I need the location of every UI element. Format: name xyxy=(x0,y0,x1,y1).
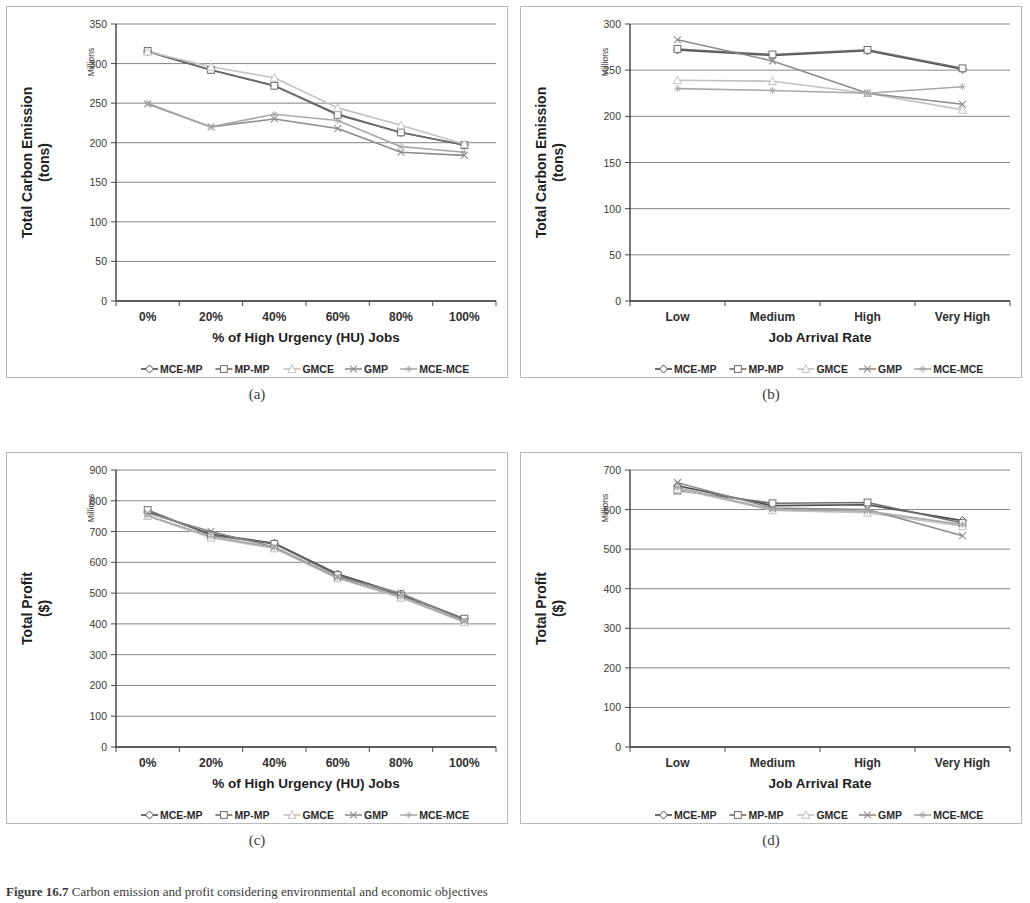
legend-item-gmce[interactable]: GMCE xyxy=(797,363,848,375)
legend-item-mce-mp[interactable]: MCE-MP xyxy=(655,363,717,375)
marker-star xyxy=(144,512,151,519)
data-point-star xyxy=(398,593,405,600)
marker-star xyxy=(398,143,405,150)
x-tick-label: 20% xyxy=(199,756,223,770)
y-tick-label: 100 xyxy=(89,216,107,228)
legend-item-mce-mp[interactable]: MCE-MP xyxy=(141,809,203,821)
y-tick-label: 200 xyxy=(89,137,107,149)
series-line-mp-mp xyxy=(148,51,465,145)
y-tick-label: 700 xyxy=(603,464,621,476)
y-tick-label: 500 xyxy=(603,543,621,555)
data-point-star xyxy=(959,521,966,528)
legend-item-mp-mp[interactable]: MP-MP xyxy=(729,363,783,375)
data-point-star xyxy=(461,618,468,625)
marker-square xyxy=(271,82,278,89)
marker-square xyxy=(221,812,228,819)
legend-label: GMP xyxy=(878,809,902,821)
legend-item-gmp[interactable]: GMP xyxy=(859,363,902,375)
y-tick-label: 600 xyxy=(89,556,107,568)
data-point-star xyxy=(769,87,776,94)
y-tick-label: 300 xyxy=(603,622,621,634)
data-point-square xyxy=(864,499,871,506)
marker-square xyxy=(674,46,681,53)
data-point-square xyxy=(769,51,776,58)
legend-label: MCE-MCE xyxy=(933,809,983,821)
y-axis-title-line2: ($) xyxy=(36,600,52,617)
legend-label: GMP xyxy=(364,809,388,821)
chart-a-canvas: 0501001502002503003500%20%40%60%80%100%%… xyxy=(6,6,508,378)
legend-label: GMCE xyxy=(816,363,848,375)
marker-star xyxy=(769,87,776,94)
series-line-gmp xyxy=(678,40,963,105)
y-axis-title-line2: (tons) xyxy=(36,143,52,182)
x-tick-label: 100% xyxy=(449,756,480,770)
x-tick-label: Medium xyxy=(750,756,795,770)
y-axis-title: Total Profit($) xyxy=(19,572,52,645)
legend-item-mce-mce[interactable]: MCE-MCE xyxy=(400,809,469,821)
figure-caption-text: Carbon emission and profit considering e… xyxy=(72,884,488,899)
y-axis-title-line2: (tons) xyxy=(550,143,566,182)
legend-item-gmp[interactable]: GMP xyxy=(859,809,902,821)
x-tick-label: High xyxy=(854,310,881,324)
x-tick-label: 60% xyxy=(326,756,350,770)
marker-star xyxy=(674,85,681,92)
legend-item-gmce[interactable]: GMCE xyxy=(283,809,334,821)
y-tick-label: 250 xyxy=(89,97,107,109)
y-axis-title-line2: ($) xyxy=(550,600,566,617)
y-axis-title: Total Profit($) xyxy=(533,572,566,645)
legend-item-mp-mp[interactable]: MP-MP xyxy=(215,363,269,375)
legend-item-gmce[interactable]: GMCE xyxy=(797,809,848,821)
x-tick-label: 0% xyxy=(139,310,157,324)
marker-triangle xyxy=(334,104,342,112)
y-tick-label: 0 xyxy=(101,295,107,307)
data-point-square xyxy=(674,46,681,53)
data-point-star xyxy=(144,100,151,107)
x-axis-title: Job Arrival Rate xyxy=(768,330,872,345)
marker-star xyxy=(405,812,412,819)
legend-item-mp-mp[interactable]: MP-MP xyxy=(729,809,783,821)
data-point-square xyxy=(221,366,228,373)
figure-panel-grid: 0501001502002503003500%20%40%60%80%100%%… xyxy=(0,0,1030,903)
marker-star xyxy=(208,123,215,130)
legend-label: MP-MP xyxy=(748,809,783,821)
legend-item-mce-mce[interactable]: MCE-MCE xyxy=(914,363,983,375)
marker-square xyxy=(735,812,742,819)
legend-label: MCE-MP xyxy=(674,809,717,821)
legend-item-gmce[interactable]: GMCE xyxy=(283,363,334,375)
y-tick-label: 150 xyxy=(89,176,107,188)
legend-label: MCE-MP xyxy=(160,363,203,375)
data-point-star xyxy=(208,533,215,540)
legend-item-gmp[interactable]: GMP xyxy=(345,809,388,821)
legend-item-mp-mp[interactable]: MP-MP xyxy=(215,809,269,821)
legend-label: MCE-MP xyxy=(674,363,717,375)
legend-label: GMP xyxy=(878,363,902,375)
chart-b-canvas: 050100150200250300LowMediumHighVery High… xyxy=(520,6,1022,378)
marker-star xyxy=(208,533,215,540)
legend-item-mce-mce[interactable]: MCE-MCE xyxy=(914,809,983,821)
legend-item-gmp[interactable]: GMP xyxy=(345,363,388,375)
legend-label: MCE-MCE xyxy=(933,363,983,375)
y-axis-title-line1: Total Profit xyxy=(19,572,35,645)
y-axis-units-text: Millions xyxy=(86,494,96,522)
y-tick-label: 350 xyxy=(89,18,107,30)
data-point-square xyxy=(735,812,742,819)
legend-item-mce-mp[interactable]: MCE-MP xyxy=(141,363,203,375)
legend-label: GMCE xyxy=(302,363,334,375)
data-point-star xyxy=(919,812,926,819)
x-tick-label: 40% xyxy=(262,310,286,324)
y-tick-label: 100 xyxy=(89,710,107,722)
y-tick-label: 50 xyxy=(95,255,107,267)
series-line-gmce xyxy=(148,516,465,622)
legend-item-mce-mp[interactable]: MCE-MP xyxy=(655,809,717,821)
y-axis-title-line1: Total Carbon Emission xyxy=(19,87,35,238)
marker-diamond xyxy=(660,365,668,373)
x-tick-label: 100% xyxy=(449,310,480,324)
data-point-square xyxy=(271,82,278,89)
series-line-mp-mp xyxy=(678,49,963,68)
data-point-square xyxy=(398,129,405,136)
marker-square xyxy=(864,46,871,53)
y-axis-units-note: Millions xyxy=(86,48,96,76)
figure-caption: Figure 16.7 Carbon emission and profit c… xyxy=(6,884,1026,903)
legend-item-mce-mce[interactable]: MCE-MCE xyxy=(400,363,469,375)
legend-label: MCE-MP xyxy=(160,809,203,821)
